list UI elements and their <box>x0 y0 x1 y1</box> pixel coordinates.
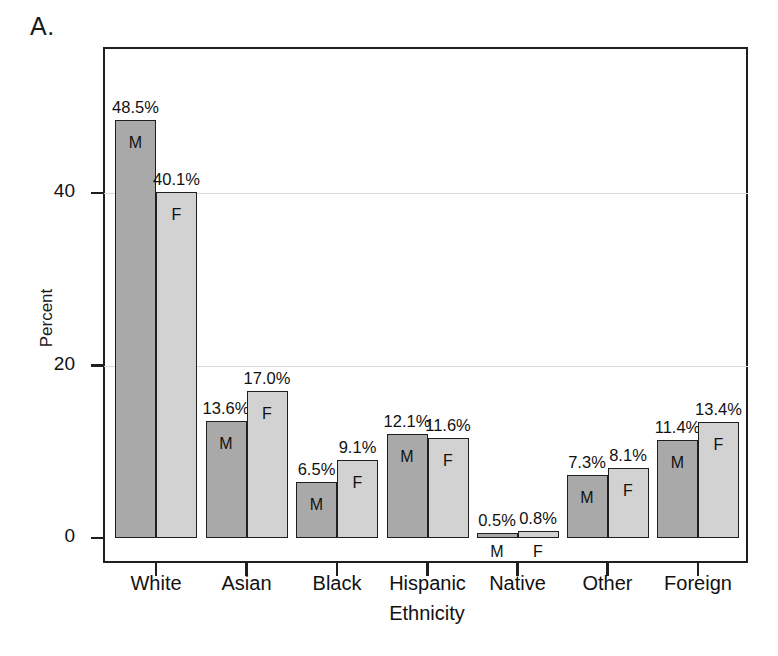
y-axis-tick <box>91 537 104 539</box>
x-axis-tick-label: White <box>130 572 181 595</box>
bar-value-label: 13.4% <box>695 400 742 419</box>
bar-series-label: F <box>353 474 363 492</box>
y-axis-tick-label: 20 <box>54 353 75 375</box>
bar-value-label: 12.1% <box>384 412 431 431</box>
gridline <box>103 193 748 194</box>
bar-value-label: 8.1% <box>609 446 647 465</box>
bar-series-label: F <box>714 436 724 454</box>
bar-series-label: F <box>443 452 453 470</box>
y-axis-tick <box>91 192 104 194</box>
bar-value-label: 0.8% <box>519 509 557 528</box>
x-axis-tick-label: Asian <box>221 572 271 595</box>
bar-series-label: M <box>490 543 503 561</box>
bar-other-f <box>608 468 649 538</box>
bar-series-label: F <box>172 206 182 224</box>
bar-series-label: M <box>219 435 232 453</box>
y-axis-tick-label: 40 <box>54 180 75 202</box>
bar-series-label: F <box>623 482 633 500</box>
bar-black-f <box>337 460 378 538</box>
bar-value-label: 48.5% <box>112 98 159 117</box>
x-axis-title: Ethnicity <box>389 602 465 625</box>
bar-value-label: 13.6% <box>203 399 250 418</box>
bar-series-label: M <box>400 448 413 466</box>
bar-series-label: M <box>129 134 142 152</box>
y-axis-tick-label: 0 <box>64 525 75 547</box>
bar-series-label: M <box>671 454 684 472</box>
bar-native-m <box>477 533 518 538</box>
x-axis-tick-label: Foreign <box>664 572 732 595</box>
bar-value-label: 17.0% <box>244 369 291 388</box>
x-axis-tick-label: Native <box>489 572 546 595</box>
y-axis-tick <box>91 364 104 366</box>
x-axis-tick-label: Other <box>582 572 632 595</box>
bar-value-label: 6.5% <box>298 460 336 479</box>
bar-series-label: F <box>533 543 543 561</box>
bar-white-f <box>156 192 197 538</box>
bar-white-m <box>115 120 156 538</box>
panel-label: A. <box>30 12 55 41</box>
bar-series-label: M <box>310 496 323 514</box>
x-axis-tick-label: Hispanic <box>389 572 466 595</box>
x-axis-tick-label: Black <box>313 572 362 595</box>
bar-value-label: 0.5% <box>478 511 516 530</box>
bar-value-label: 11.6% <box>425 416 471 435</box>
bar-series-label: F <box>262 405 272 423</box>
bar-native-f <box>518 531 559 538</box>
bar-value-label: 9.1% <box>339 438 377 457</box>
bar-value-label: 11.4% <box>655 418 701 437</box>
bar-value-label: 40.1% <box>153 170 200 189</box>
bar-value-label: 7.3% <box>568 453 606 472</box>
figure-panel-a: A. Percent 02040WhiteAsianBlackHispanicN… <box>0 0 778 656</box>
bar-series-label: M <box>580 489 593 507</box>
gridline <box>103 366 748 367</box>
